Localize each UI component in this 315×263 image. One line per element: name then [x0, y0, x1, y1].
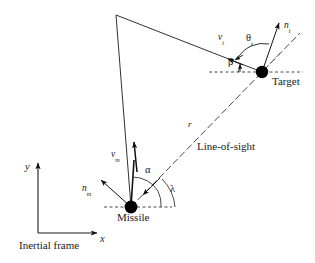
angle-lambda-label: λ [170, 184, 175, 195]
engagement-geometry-figure: Target Missile Line-of-sight Inertial fr… [0, 0, 315, 263]
missile-acceleration-subscript: m [87, 190, 92, 197]
angle-theta-t-subscript: t [251, 40, 253, 47]
target-velocity-subscript: t [222, 39, 224, 46]
line-of-sight-label: Line-of-sight [197, 141, 255, 152]
target-acceleration-label: nt [284, 21, 291, 32]
angle-arc-alpha-lower [158, 191, 161, 207]
missile-acceleration-label: nm [82, 184, 91, 195]
target-velocity-label: vt [218, 33, 224, 44]
target-label: Target [272, 76, 300, 87]
y-axis-label: y [25, 162, 30, 173]
target-acceleration-vector [262, 23, 279, 72]
missile-velocity-line [116, 15, 137, 207]
angle-arc-theta-t [238, 43, 269, 58]
inertial-frame-label: Inertial frame [19, 240, 79, 251]
missile-label: Missile [117, 212, 149, 223]
line-of-sight-line [131, 33, 300, 207]
angle-theta-t-label: θt [246, 33, 253, 46]
figure-canvas [0, 0, 315, 263]
inertial-frame-axes [38, 163, 97, 233]
angle-beta-label: β [228, 57, 233, 68]
target-velocity-line [116, 15, 262, 72]
x-axis-label: x [100, 234, 105, 245]
target-acceleration-subscript: t [289, 27, 291, 34]
range-label: r [188, 120, 192, 129]
target-marker [256, 66, 268, 78]
angle-alpha-label: α [145, 165, 151, 176]
missile-velocity-label: vm [111, 150, 120, 161]
missile-velocity-subscript: m [115, 156, 120, 163]
